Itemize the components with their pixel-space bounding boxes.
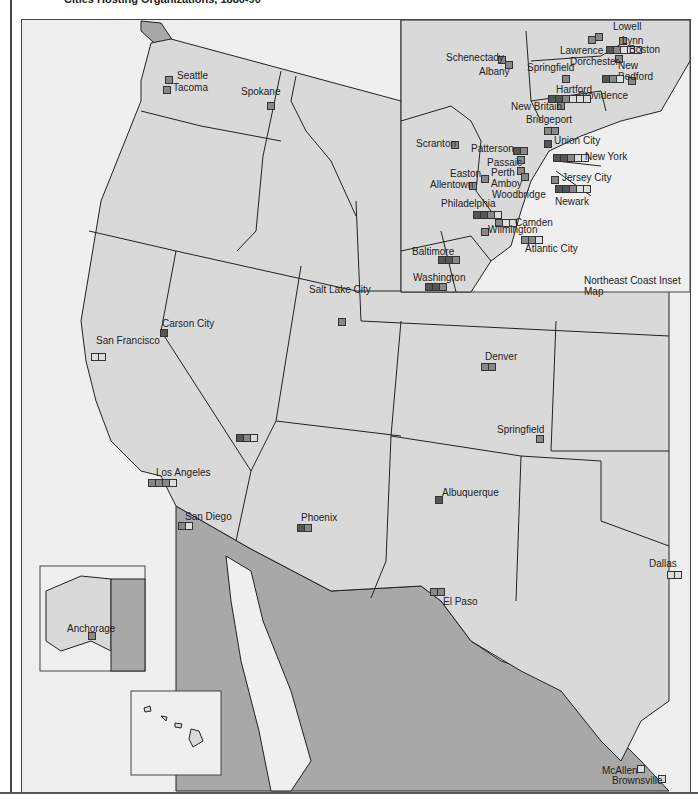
marker-cell	[452, 256, 460, 264]
city-label-easton: Easton	[450, 168, 481, 179]
city-label-phoenix: Phoenix	[301, 512, 337, 523]
city-marker-union-city[interactable]	[544, 140, 551, 147]
city-marker-phoenix[interactable]	[297, 524, 311, 531]
city-label-washington: Washington	[413, 272, 465, 283]
city-marker-springfield[interactable]	[536, 435, 543, 442]
city-marker-philadelphia[interactable]	[473, 211, 501, 218]
city-label-salt-lake-city: Salt Lake City	[309, 284, 371, 295]
city-label-brownsville: Brownsville	[612, 775, 663, 786]
city-label-los-angeles: Los Angeles	[156, 467, 211, 478]
city-label-philadelphia: Philadelphia	[441, 198, 496, 209]
city-label-new-britain: New Britain	[511, 101, 562, 112]
marker-cell	[536, 435, 544, 443]
city-marker-atlantic-city[interactable]	[521, 236, 542, 243]
marker-cell	[637, 765, 645, 773]
city-marker-los-angeles[interactable]	[148, 479, 176, 486]
city-marker-woodbridge[interactable]	[521, 173, 528, 180]
marker-cell	[521, 173, 529, 181]
city-marker-carson-city[interactable]	[160, 329, 167, 336]
city-label-patterson: Patterson	[471, 143, 514, 154]
city-label-tacoma: Tacoma	[173, 82, 208, 93]
hawaii-inset-box	[131, 691, 221, 775]
city-label-el-paso: El Paso	[443, 596, 477, 607]
city-label-denver: Denver	[485, 351, 517, 362]
city-marker-anchorage[interactable]	[88, 632, 95, 639]
city-label-lawrence: Lawrence	[560, 45, 603, 56]
city-label-albany: Albany	[479, 66, 510, 77]
marker-cell	[165, 76, 173, 84]
city-marker-salt-lake-city[interactable]	[338, 318, 345, 325]
city-marker-denver[interactable]	[481, 363, 495, 370]
city-marker-jersey-city[interactable]	[551, 176, 558, 183]
city-label-spokane: Spokane	[241, 86, 280, 97]
city-marker-baltimore[interactable]	[438, 256, 459, 263]
city-marker-patterson[interactable]	[513, 147, 527, 154]
city-marker-tacoma[interactable]	[163, 86, 170, 93]
city-label-wilmington: Wilmington	[488, 224, 537, 235]
marker-cell	[562, 75, 570, 83]
city-label-lowell: Lowell	[613, 21, 641, 32]
city-label-bridgeport: Bridgeport	[526, 114, 572, 125]
city-marker-washington[interactable]	[425, 283, 446, 290]
marker-cell	[169, 479, 177, 487]
marker-cell	[494, 211, 502, 219]
city-marker-lowell[interactable]	[595, 33, 602, 40]
marker-cell	[544, 140, 552, 148]
marker-cell	[551, 127, 559, 135]
city-marker-dallas[interactable]	[667, 571, 681, 578]
marker-cell	[250, 434, 258, 442]
city-marker-san-diego[interactable]	[178, 522, 192, 529]
city-label-baltimore: Baltimore	[412, 246, 454, 257]
marker-cell	[583, 185, 591, 193]
city-label-union-city: Union City	[554, 135, 600, 146]
city-label-new-york: New York	[585, 151, 627, 162]
city-marker-las-vegas[interactable]	[236, 434, 257, 441]
city-label-carson-city: Carson City	[162, 318, 214, 329]
marker-cell	[481, 175, 489, 183]
city-marker-wilmington[interactable]	[481, 228, 488, 235]
marker-cell	[98, 353, 106, 361]
marker-cell	[160, 329, 168, 337]
city-marker-lawrence[interactable]	[588, 36, 595, 43]
city-marker-springfield[interactable]	[562, 75, 569, 82]
city-label-springfield: Springfield	[527, 62, 574, 73]
marker-cell	[437, 588, 445, 596]
city-label-atlantic-city: Atlantic City	[525, 243, 578, 254]
marker-cell	[488, 363, 496, 371]
marker-cell	[185, 522, 193, 530]
city-label-hartford: Hartford	[556, 84, 592, 95]
city-marker-san-francisco[interactable]	[91, 353, 105, 360]
city-marker-mcallen[interactable]	[637, 765, 644, 772]
city-label-perth-amboy: PerthAmboy	[491, 167, 522, 189]
city-marker-seattle[interactable]	[165, 76, 172, 83]
marker-cell	[595, 33, 603, 41]
city-marker-new-york[interactable]	[553, 154, 588, 161]
city-label-seattle: Seattle	[177, 70, 208, 81]
city-label-jersey-city: Jersey City	[562, 172, 611, 183]
marker-cell	[338, 318, 346, 326]
city-marker-albuquerque[interactable]	[435, 496, 442, 503]
city-label-allentown: Allentown	[430, 179, 473, 190]
city-label-woodbridge: Woodbridge	[492, 189, 546, 200]
city-marker-newark[interactable]	[555, 185, 590, 192]
marker-cell	[304, 524, 312, 532]
city-marker-spokane[interactable]	[267, 102, 274, 109]
marker-cell	[588, 36, 596, 44]
map-canvas: LowellLynnBostonLawrenceDorchesterNewBed…	[21, 19, 691, 793]
marker-cell	[267, 102, 275, 110]
marker-cell	[520, 147, 528, 155]
city-label-boston: Boston	[629, 44, 660, 55]
city-marker-providence[interactable]	[602, 75, 623, 82]
city-label-san-diego: San Diego	[185, 511, 232, 522]
inset-map-title: Northeast Coast Inset Map	[584, 275, 690, 297]
city-marker-el-paso[interactable]	[430, 588, 444, 595]
marker-cell	[163, 86, 171, 94]
city-label-scranton: Scranton	[416, 138, 456, 149]
city-label-albuquerque: Albuquerque	[442, 487, 499, 498]
marker-cell	[616, 75, 624, 83]
marker-cell	[551, 176, 559, 184]
city-marker-easton[interactable]	[481, 175, 488, 182]
city-marker-bridgeport[interactable]	[544, 127, 558, 134]
marker-cell	[439, 283, 447, 291]
city-label-schenectady: Schenectady	[446, 52, 504, 63]
